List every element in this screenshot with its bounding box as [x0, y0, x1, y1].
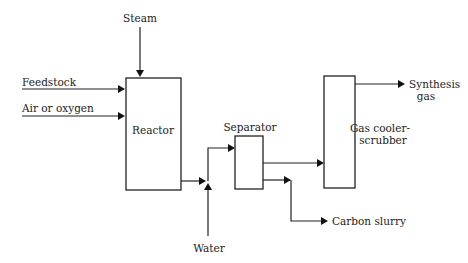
- feedstock-label: Feedstock: [22, 76, 77, 88]
- air-oxygen-label: Air or oxygen: [21, 102, 94, 114]
- process-flow-diagram: Steam Feedstock Air or oxygen Reactor Wa…: [0, 0, 468, 263]
- separator-unit: [235, 136, 263, 189]
- arrowhead-icon: [321, 217, 328, 225]
- arrowhead-icon: [317, 159, 324, 167]
- arrowhead-icon: [199, 177, 206, 185]
- arrowhead-icon: [118, 85, 125, 93]
- arrowhead-icon: [118, 112, 125, 120]
- separator-label: Separator: [223, 121, 277, 133]
- water-label: Water: [193, 242, 226, 254]
- arrowhead-icon: [284, 176, 291, 184]
- arrowhead-icon: [204, 183, 212, 190]
- scrubber-label-line1: Gas cooler-: [350, 122, 410, 134]
- syngas-label-line2: gas: [417, 90, 435, 102]
- reactor-label: Reactor: [132, 124, 175, 136]
- arrowhead-icon: [398, 80, 405, 88]
- arrowhead-icon: [228, 144, 235, 152]
- carbon-slurry-label: Carbon slurry: [332, 215, 406, 227]
- arrowhead-icon: [136, 70, 144, 77]
- syngas-label-line1: Synthesis: [409, 78, 460, 90]
- steam-label: Steam: [123, 12, 157, 24]
- scrubber-label-line2: scrubber: [359, 134, 408, 146]
- slurry-line-b: [291, 180, 322, 221]
- separator-inlet-line: [208, 148, 229, 181]
